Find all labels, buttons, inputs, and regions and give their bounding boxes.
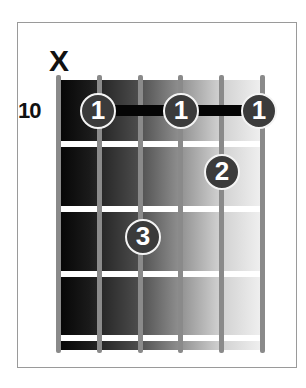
string-1 <box>56 75 61 353</box>
fret-line-3 <box>58 271 264 277</box>
finger-dot-string6-fret1: 1 <box>241 93 277 129</box>
string-3 <box>138 75 143 353</box>
fret-line-1 <box>58 141 264 147</box>
fret-line-4 <box>58 335 264 341</box>
finger-dot-string4-fret1: 1 <box>163 93 199 129</box>
finger-dot-string3-fret3: 3 <box>125 219 161 255</box>
fret-line-2 <box>58 206 264 212</box>
starting-fret-label: 10 <box>18 98 40 124</box>
finger-dot-string5-fret2: 2 <box>204 154 240 190</box>
finger-dot-string2-fret1: 1 <box>80 93 116 129</box>
muted-string-marker: X <box>46 46 72 76</box>
string-5 <box>219 75 224 353</box>
